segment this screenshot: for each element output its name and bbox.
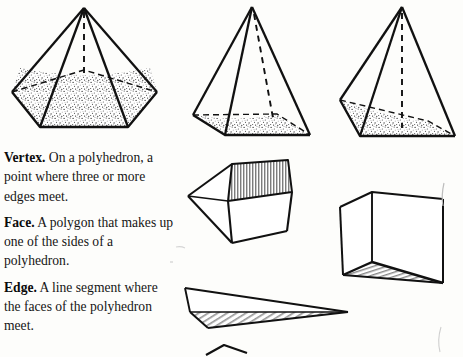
figure-partial-shape-bottom [206,345,247,355]
figure-thin-tetrahedron-wedge [185,288,348,328]
glossary-entry-face: Face. A polygon that makes up one of the… [4,213,176,271]
figure-triangular-prism-wedge [340,192,443,283]
glossary-entry-edge: Edge. A line segment where the faces of … [4,278,176,336]
glossary-entry-vertex: Vertex. On a polyhedron, a point where t… [4,148,176,206]
textbook-page: Vertex. On a polyhedron, a point where t… [0,0,463,357]
glossary-term-vertex: Vertex. [4,150,45,165]
glossary-definitions: Vertex. On a polyhedron, a point where t… [4,148,176,336]
figure-pentagonal-pyramid-with-sand [12,8,157,127]
glossary-term-face: Face. [4,215,35,230]
figure-square-pyramid-with-sand-right [340,7,455,136]
figure-open-top-cube [188,160,292,243]
glossary-term-edge: Edge. [4,280,37,295]
figure-square-pyramid-with-sand-left [193,7,310,135]
